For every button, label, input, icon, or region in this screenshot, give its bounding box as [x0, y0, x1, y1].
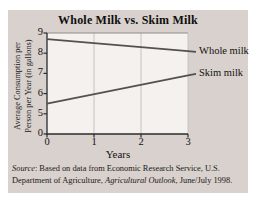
source-line2a: Department of Agriculture,: [12, 176, 105, 185]
source-line1: : Based on data from Economic Research S…: [35, 164, 220, 173]
source-line2b: , June/July 1998.: [176, 176, 233, 185]
y-tick-label: 9: [26, 26, 43, 37]
source-journal: Agricultural Outlook: [105, 176, 175, 185]
x-tick-label: 3: [185, 136, 190, 147]
y-tick-label: 8: [26, 46, 43, 57]
series-label-whole-milk: Whole milk: [199, 45, 249, 58]
y-tick-label: 6: [26, 87, 43, 98]
y-tick-label: 5: [26, 107, 43, 118]
x-axis-label: Years: [106, 148, 131, 160]
x-tick-label: 2: [138, 136, 143, 147]
source-word: Source: [12, 164, 35, 173]
x-tick-label: 0: [44, 136, 49, 147]
source-note: Source: Based on data from Economic Rese…: [12, 163, 246, 187]
series-label-skim-milk: Skim milk: [199, 67, 243, 80]
page: Whole Milk vs. Skim Milk Average Consump…: [0, 0, 261, 203]
y-tick-label: 7: [26, 66, 43, 77]
plot-area: [47, 33, 188, 134]
y-tick-label: 0: [26, 127, 43, 138]
x-tick-label: 1: [91, 136, 96, 147]
